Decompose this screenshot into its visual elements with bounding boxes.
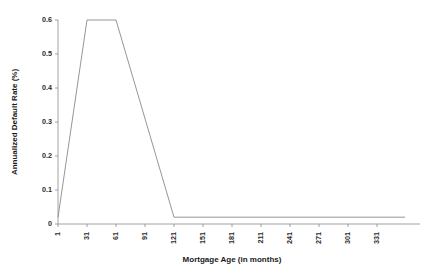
- x-tick-label: 91: [140, 232, 149, 240]
- x-tick-label: 271: [314, 232, 323, 244]
- chart-background: [0, 0, 427, 277]
- x-tick-label: 31: [82, 232, 91, 240]
- default-rate-line-chart: 00.10.20.30.40.50.6 Annualized Default R…: [0, 0, 427, 277]
- x-tick-label: 151: [198, 232, 207, 244]
- x-tick-label: 241: [285, 232, 294, 244]
- y-tick-label: 0.1: [42, 185, 52, 194]
- x-tick-label: 61: [111, 232, 120, 240]
- y-axis-title: Annualized Default Rate (%): [10, 69, 19, 176]
- y-tick-label: 0.5: [42, 49, 52, 58]
- x-tick-label: 181: [227, 232, 236, 244]
- y-tick-label: 0.3: [42, 117, 52, 126]
- x-tick-label: 121: [169, 232, 178, 244]
- x-tick-label: 211: [256, 232, 265, 244]
- y-tick-label: 0.2: [42, 151, 52, 160]
- y-tick-label: 0: [48, 219, 52, 228]
- y-tick-label: 0.6: [42, 15, 52, 24]
- chart-figure: 00.10.20.30.40.50.6 Annualized Default R…: [0, 0, 427, 277]
- x-tick-label: 1: [53, 232, 62, 236]
- x-tick-label: 331: [372, 232, 381, 244]
- x-axis-title: Mortgage Age (in months): [183, 255, 282, 264]
- y-tick-label: 0.4: [42, 83, 52, 92]
- x-tick-label: 301: [343, 232, 352, 244]
